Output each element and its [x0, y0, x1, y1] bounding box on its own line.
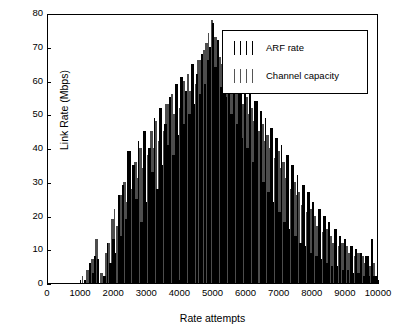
y-tick-mark [47, 115, 51, 116]
y-tick-mark [47, 14, 51, 15]
legend: ARF rate Channel capacity [222, 30, 368, 94]
bar [146, 202, 148, 283]
x-tick-mark [345, 280, 346, 284]
bar [209, 47, 211, 283]
bar [185, 91, 187, 283]
y-axis-label: Link Rate (Mbps) [58, 40, 70, 180]
bar [169, 97, 171, 283]
bar [352, 273, 354, 283]
x-tick-mark [146, 280, 147, 284]
x-tick-mark [213, 280, 214, 284]
bar [233, 67, 235, 283]
y-tick-mark [47, 284, 51, 285]
bar [305, 246, 307, 283]
bar [162, 165, 164, 283]
bar [336, 266, 338, 283]
x-tick-mark [378, 280, 379, 284]
bar [138, 141, 140, 283]
bar [193, 104, 195, 283]
x-tick-mark [80, 280, 81, 284]
legend-entry-arf-rate: ARF rate [223, 38, 367, 60]
x-tick-mark [279, 280, 280, 284]
bar [257, 172, 259, 283]
bar [241, 138, 243, 283]
chart-figure: 01020304050607080 0100020003000400050006… [0, 0, 404, 334]
bar [177, 135, 179, 284]
bar [360, 253, 362, 283]
x-tick-mark [113, 280, 114, 284]
y-tick-mark [47, 82, 51, 83]
bar [84, 280, 86, 283]
bar [217, 40, 219, 283]
bar [273, 202, 275, 283]
bar [289, 229, 291, 283]
x-tick-mark [246, 280, 247, 284]
legend-entry-channel-capacity: Channel capacity [223, 66, 367, 88]
y-tick-mark [47, 250, 51, 251]
bar [154, 118, 156, 283]
bar [368, 276, 370, 283]
bar [297, 175, 299, 283]
legend-swatch-arf-rate [232, 41, 258, 55]
bar [97, 259, 100, 283]
y-tick-mark [47, 149, 51, 150]
bar [373, 276, 376, 283]
bar [265, 118, 267, 283]
bar [115, 253, 117, 283]
y-tick-mark [47, 217, 51, 218]
legend-label-channel-capacity: Channel capacity [266, 69, 339, 83]
bar [281, 145, 283, 283]
x-axis-label: Rate attempts [47, 312, 378, 324]
x-tick-mark [179, 280, 180, 284]
x-tick-mark [312, 280, 313, 284]
bar [328, 222, 330, 283]
bar [344, 239, 346, 283]
x-tick-label: 10000 [348, 287, 404, 298]
bar [225, 97, 227, 283]
bar [320, 259, 322, 283]
y-tick-mark [47, 48, 51, 49]
bar [94, 256, 96, 283]
bar [201, 54, 203, 284]
bar [249, 94, 251, 283]
bar [107, 243, 109, 284]
legend-swatch-channel-capacity [232, 69, 258, 83]
legend-label-arf-rate: ARF rate [266, 41, 304, 55]
bar [82, 276, 84, 283]
bar [312, 202, 314, 283]
x-tick-mark [47, 280, 48, 284]
bar [130, 209, 132, 283]
bar [103, 276, 106, 283]
y-tick-mark [47, 183, 51, 184]
